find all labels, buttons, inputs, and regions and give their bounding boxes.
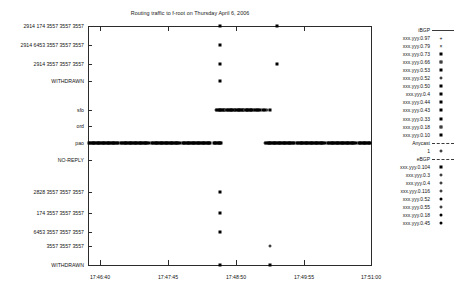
legend-open-circle-icon: [440, 181, 443, 184]
data-point: [219, 191, 222, 194]
legend-item-label: xxx.yyy.0.18: [403, 123, 430, 131]
legend-filled-square-icon: [440, 93, 443, 96]
legend-item[interactable]: xxx.yyy.0.4: [376, 90, 462, 98]
legend-item[interactable]: xxx.yyy.0.33: [376, 115, 462, 123]
legend-item[interactable]: xxx.yyy.0.45: [376, 219, 462, 227]
legend-open-circle-icon: [440, 77, 443, 80]
legend-group-title: Anycast: [412, 139, 430, 147]
legend-symbol-filled-square: [432, 98, 458, 106]
legend-open-circle-icon: [440, 206, 443, 209]
legend-symbol-open-square: [432, 123, 458, 131]
legend-symbol-open-circle: [432, 171, 458, 179]
data-point-pao: [220, 142, 223, 145]
legend-item[interactable]: xxx.yyy.0.73: [376, 50, 462, 58]
legend-dashed-line-icon: [432, 143, 454, 144]
data-point: [219, 231, 222, 234]
data-point: [269, 264, 272, 267]
y-tick-label: sfo: [0, 107, 84, 113]
y-tick-label: 2828 3557 3557 3557: [0, 189, 84, 195]
legend-item-label: xxx.yyy.0.52: [403, 74, 430, 82]
legend-dashed-line-icon: [432, 159, 454, 160]
legend-symbol-open-circle: [432, 179, 458, 187]
legend-symbol-filled-square: [432, 90, 458, 98]
legend-symbol-filled-square: [432, 163, 458, 171]
data-point: [276, 25, 279, 28]
y-tick-label: WITHDRAWN: [0, 262, 84, 268]
legend-item[interactable]: xxx.yyy.0.3: [376, 171, 462, 179]
legend-item-label: xxx.yyy.0.53: [403, 66, 430, 74]
legend-filled-square-icon: [440, 53, 443, 56]
y-tick-label: 2914 174 3557 3557 3557: [0, 23, 84, 29]
legend-filled-square-icon: [440, 85, 443, 88]
legend-item[interactable]: xxx.yyy.0.18: [376, 123, 462, 131]
y-tick-label: 6453 3557 3557 3557: [0, 229, 84, 235]
legend-item-label: xxx.yyy.0.45: [403, 219, 430, 227]
legend-item[interactable]: xxx.yyy.0.52: [376, 195, 462, 203]
legend-symbol-filled-square: [432, 115, 458, 123]
legend-cross-icon: ×: [440, 44, 443, 49]
legend-open-square-icon: [440, 125, 443, 128]
legend-item-label: xxx.yyy.0.50: [403, 82, 430, 90]
data-point-pao: [369, 142, 372, 145]
legend-item-label: xxx.yyy.0.44: [403, 98, 430, 106]
legend-item[interactable]: xxx.yyy.0.4: [376, 179, 462, 187]
y-tick-label: 2914 6453 3557 3557 3557: [0, 42, 84, 48]
routing-traffic-chart: Routing traffic to f-root on Thursday Ap…: [0, 0, 462, 299]
legend-item-label: xxx.yyy.0.43: [403, 106, 430, 114]
y-tick-label: NO-REPLY: [0, 157, 84, 163]
legend-item-label: xxx.yyy.0.33: [403, 115, 430, 123]
plot-area: [88, 26, 372, 266]
legend-item[interactable]: xxx.yyy.0.18: [376, 211, 462, 219]
legend-item[interactable]: xxx.yyy.0.53: [376, 66, 462, 74]
legend-open-circle-icon: [440, 173, 443, 176]
legend-symbol-dashed-line: [432, 155, 458, 163]
x-tick-label: 17:48:50: [226, 274, 246, 280]
legend-item-label: xxx.yyy.0.3: [406, 171, 430, 179]
legend-item-label: xxx.yyy.0.10: [403, 131, 430, 139]
y-tick-label: WITHDRAWN: [0, 78, 84, 84]
data-point: [219, 63, 222, 66]
legend-item[interactable]: xxx.yyy.0.116: [376, 187, 462, 195]
x-tick-label: 17:47:45: [158, 274, 178, 280]
legend-filled-square-icon: [440, 109, 443, 112]
data-point: [219, 212, 222, 215]
legend-symbol-open-circle: [432, 147, 458, 155]
legend-item[interactable]: xxx.yyy.0.52: [376, 74, 462, 82]
legend-item-label: xxx.yyy.0.4: [406, 90, 430, 98]
legend-item[interactable]: xxx.yyy.0.10: [376, 131, 462, 139]
legend-item[interactable]: xxx.yyy.0.79×: [376, 42, 462, 50]
legend-item[interactable]: xxx.yyy.0.66: [376, 58, 462, 66]
data-point: [219, 25, 222, 28]
legend-symbol-plus: +: [432, 34, 458, 42]
data-point: [276, 63, 279, 66]
legend-filled-square-icon: [440, 117, 443, 120]
legend-item[interactable]: xxx.yyy.0.50: [376, 82, 462, 90]
legend-item[interactable]: xxx.yyy.0.104: [376, 163, 462, 171]
legend-symbol-open-circle: [432, 203, 458, 211]
x-tick-label: 17:46:40: [90, 274, 110, 280]
legend-filled-circle-icon: [440, 197, 443, 200]
legend-item[interactable]: 1: [376, 147, 462, 155]
chart-legend: iBGPxxx.yyy.0.97+xxx.yyy.0.79×xxx.yyy.0.…: [376, 26, 462, 227]
legend-item[interactable]: xxx.yyy.0.44: [376, 98, 462, 106]
data-point: [269, 245, 272, 248]
legend-item-label: 1: [427, 147, 430, 155]
legend-item-label: xxx.yyy.0.55: [403, 203, 430, 211]
legend-item[interactable]: xxx.yyy.0.55: [376, 203, 462, 211]
y-tick-label: 3557 3557 3557: [0, 243, 84, 249]
x-tick-label: 17:49:55: [294, 274, 314, 280]
data-point-sfo: [268, 109, 271, 112]
legend-item-label: xxx.yyy.0.18: [403, 211, 430, 219]
y-tick-label: ord: [0, 123, 84, 129]
legend-symbol-cross: ×: [432, 42, 458, 50]
legend-group-title: eBGP: [417, 155, 430, 163]
legend-item[interactable]: xxx.yyy.0.43: [376, 106, 462, 114]
legend-filled-square-icon: [440, 165, 443, 168]
legend-open-square-icon: [440, 61, 443, 64]
legend-symbol-filled-circle: [432, 195, 458, 203]
legend-item[interactable]: xxx.yyy.0.97+: [376, 34, 462, 42]
legend-filled-square-icon: [440, 69, 443, 72]
legend-filled-circle-icon: [440, 222, 443, 225]
data-point: [219, 264, 222, 267]
legend-symbol-open-circle: [432, 74, 458, 82]
